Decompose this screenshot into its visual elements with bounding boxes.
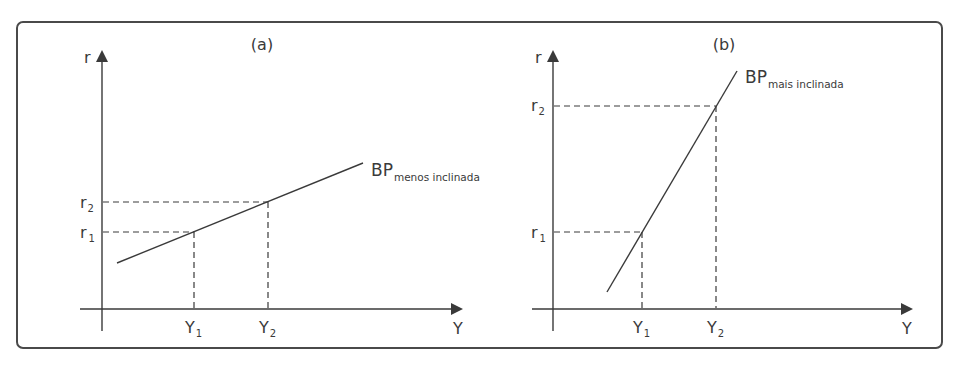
panel-b-r-axis-label: r — [535, 48, 542, 67]
panel-b-bp-curve — [607, 71, 737, 292]
panel-b-y-axis-arrow-icon — [901, 303, 913, 315]
panel-a-bp-label: BPmenos inclinada — [371, 160, 480, 183]
panel-b-r2-label: r2 — [531, 96, 545, 117]
panel-b-y-axis-label: Y — [901, 319, 912, 338]
panel-a-y1-label: Y1 — [184, 318, 202, 339]
panel-b-r-axis-arrow-icon — [547, 50, 559, 62]
panel-b-y2-label: Y2 — [706, 318, 724, 339]
panel-a: (a) r Y r2 r1 Y1 Y2 BPmenos inclinada — [80, 35, 480, 339]
panel-a-r-axis-label: r — [84, 48, 91, 67]
panel-b-r1-label: r1 — [531, 223, 546, 244]
panel-a-y-axis-arrow-icon — [451, 303, 463, 315]
panel-a-title: (a) — [251, 35, 273, 54]
panel-b: (b) r Y r2 r1 Y1 Y2 BPmais inclinada — [531, 35, 913, 339]
panel-a-r2-label: r2 — [80, 193, 94, 214]
panel-a-r1-label: r1 — [80, 223, 95, 244]
panel-b-title: (b) — [713, 35, 736, 54]
panel-b-y1-label: Y1 — [632, 318, 650, 339]
panel-a-bp-curve — [117, 163, 363, 263]
panel-a-y2-label: Y2 — [258, 318, 276, 339]
panel-b-bp-label: BPmais inclinada — [745, 67, 844, 90]
bp-slope-diagram: (a) r Y r2 r1 Y1 Y2 BPmenos inclinada (b… — [0, 0, 958, 366]
panel-a-y-axis-label: Y — [452, 319, 463, 338]
panel-a-r-axis-arrow-icon — [96, 50, 108, 62]
